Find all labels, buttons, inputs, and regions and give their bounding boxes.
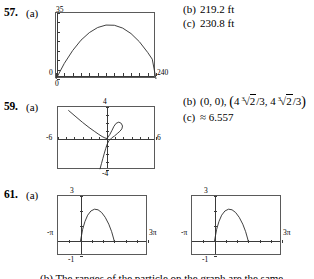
graph-61-left-x-min-label: -π [47, 229, 53, 237]
y-tick [214, 256, 217, 257]
graph-57-y-tick [57, 51, 60, 52]
answer-line-b: (b)219.2 ft [183, 2, 314, 16]
graph-61-right [191, 195, 281, 255]
x-tick [248, 240, 249, 243]
graph-61-left-curve [58, 196, 148, 256]
graph-57-y-tick [57, 60, 60, 61]
x-tick [271, 240, 272, 243]
graph-57-x-max-label: 240 [157, 69, 168, 77]
graph-61-right-curve [192, 196, 282, 256]
problem-59-answers: (b)(0, 0), (43√2/3, 43√2/3) (c)≈ 6.557 [183, 94, 314, 124]
graph-59-y-tick [106, 123, 109, 124]
x-tick [114, 240, 115, 243]
graph-57-y-tick [57, 70, 60, 71]
problem-number-61: 61. [4, 188, 18, 200]
answer-line-b: (b)(0, 0), (43√2/3, 43√2/3) [183, 94, 314, 110]
graph-57-x-min-label: 0 [55, 80, 59, 88]
x-tick [69, 240, 70, 243]
graph-61-left-x-max-label: 3π [149, 229, 157, 237]
answer-c-text: ≈ 6.557 [200, 111, 234, 123]
paren-close: ) [301, 94, 306, 109]
x-tick [103, 240, 104, 243]
graph-57-x-tick [98, 73, 99, 76]
graph-61-left-y-max-label: 3 [70, 187, 74, 195]
graph-59-x-tick [74, 137, 75, 140]
problem-number-57: 57. [4, 6, 18, 18]
graph-59-x-tick [83, 137, 84, 140]
x-tick [148, 240, 149, 243]
x-tick [237, 240, 238, 243]
graph-59-x-tick [91, 137, 92, 140]
graph-59-y-tick [106, 107, 109, 108]
graph-61-left [57, 195, 147, 255]
cube-root-radical-y: 3√2 [276, 94, 293, 110]
graph-57-y-tick [57, 41, 60, 42]
graph-59-y-max-label: 4 [103, 98, 107, 106]
problem-59-part-a-label: (a) [26, 101, 38, 113]
x-tick [260, 240, 261, 243]
graph-59-x-tick [123, 137, 124, 140]
answer-line-c: (c)230.8 ft [183, 16, 314, 30]
graph-59-y-tick [106, 162, 109, 163]
graph-59-y-min-label: -4 [102, 170, 108, 178]
graph-59-y-tick [106, 131, 109, 132]
answer-b-label: (b) [183, 94, 200, 108]
bottom-note: (b) The ranges of the particle on the gr… [40, 272, 314, 279]
graph-57-y-tick [57, 32, 60, 33]
answer-b-text: 219.2 ft [200, 3, 234, 15]
problem-57-part-a-label: (a) [26, 7, 38, 19]
graph-59-y-tick [106, 146, 109, 147]
graph-57-x-tick [64, 73, 65, 76]
graph-59-x-min-label: -6 [46, 134, 52, 142]
problem-61-part-a-label: (a) [26, 189, 38, 201]
graph-57-x-tick [114, 73, 115, 76]
graph-57-x-tick [139, 73, 140, 76]
radicand-x: 2 [250, 94, 257, 107]
radicand-y: 2 [286, 94, 293, 107]
x-tick [282, 240, 283, 243]
y-tick [80, 211, 83, 212]
y-tick [80, 196, 83, 197]
graph-57-x-tick [56, 73, 57, 76]
graph-57-x-tick [148, 73, 149, 76]
x-tick [203, 240, 204, 243]
y-tick [214, 211, 217, 212]
problem-59: 59. (a) 4 -4 -6 6 (b)(0, 0), (43√2/3, 43… [0, 92, 314, 184]
graph-57-y-max-label: 35 [56, 6, 64, 14]
graph-57-curve [56, 13, 156, 79]
y-tick [80, 256, 83, 257]
graph-57-x-tick [81, 73, 82, 76]
graph-61-left-y-min-label: -1 [68, 256, 74, 264]
graph-61-right-x-max-label: 3π [283, 229, 291, 237]
problem-number-59: 59. [4, 100, 18, 112]
graph-57-x-axis [56, 76, 154, 77]
graph-59-y-tick [106, 154, 109, 155]
x-tick [126, 240, 127, 243]
graph-59-x-tick [132, 137, 133, 140]
graph-59-x-tick [58, 137, 59, 140]
answer-b-label: (b) [183, 2, 200, 16]
x-tick [226, 240, 227, 243]
cube-root-radical-x: 3√2 [240, 94, 257, 110]
graph-61-right-y-max-label: 3 [204, 187, 208, 195]
answer-b-origin-point: (0, 0), [200, 95, 229, 107]
answer-c-text: 230.8 ft [200, 17, 234, 29]
graph-57-x-tick [106, 73, 107, 76]
radical-index-y: 3 [278, 95, 281, 102]
paren-open: ( [229, 94, 234, 109]
graph-59-x-tick [66, 137, 67, 140]
graph-59-x-max-label: 6 [157, 134, 161, 142]
graph-57-y-min-label: 0 [49, 69, 53, 77]
graph-59-curve [58, 107, 156, 170]
graph-57-x-tick [131, 73, 132, 76]
coord-x-denom: /3 [256, 95, 265, 107]
graph-59-x-tick [140, 137, 141, 140]
graph-59-x-tick [148, 137, 149, 140]
graph-59 [57, 106, 155, 169]
problem-57: 57. (a) 35 0 0 240 (b)219.2 ft (c)230.8 … [0, 0, 314, 92]
problem-61: 61. (a) 3 -1 -π 3π 3 -1 -π 3π [0, 184, 314, 279]
answer-c-label: (c) [183, 110, 200, 124]
graph-59-x-tick [99, 137, 100, 140]
x-tick [137, 240, 138, 243]
graph-59-y-tick [106, 115, 109, 116]
